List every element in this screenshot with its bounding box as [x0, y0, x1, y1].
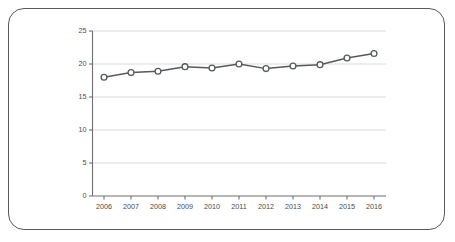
data-point-marker — [236, 61, 242, 67]
x-tick-label: 2015 — [339, 202, 355, 211]
x-tick-label: 2013 — [285, 202, 301, 211]
y-tick-label: 15 — [79, 92, 87, 101]
x-tick-label: 2010 — [204, 202, 220, 211]
line-chart: 0510152025 20062007200820092010201120122… — [0, 0, 455, 242]
data-point-marker — [317, 62, 323, 68]
data-point-marker — [263, 66, 269, 72]
chart-svg: 0510152025 20062007200820092010201120122… — [0, 0, 455, 242]
data-series — [101, 51, 377, 81]
data-point-marker — [182, 64, 188, 70]
y-tick-labels: 0510152025 — [79, 26, 87, 200]
gridlines — [93, 31, 387, 163]
x-tick-label: 2009 — [177, 202, 193, 211]
y-tick-label: 10 — [79, 125, 87, 134]
y-tick-label: 5 — [83, 158, 87, 167]
x-axis — [93, 196, 387, 200]
series-markers — [101, 51, 377, 81]
x-tick-label: 2006 — [96, 202, 112, 211]
x-tick-labels: 2006200720082009201020112012201320142015… — [96, 202, 382, 211]
x-tick-label: 2011 — [231, 202, 246, 211]
data-point-marker — [101, 74, 107, 80]
data-point-marker — [371, 51, 377, 57]
x-tick-label: 2016 — [366, 202, 382, 211]
x-tick-label: 2012 — [258, 202, 274, 211]
data-point-marker — [155, 68, 161, 74]
data-point-marker — [128, 70, 134, 76]
x-tick-label: 2014 — [312, 202, 328, 211]
x-tick-label: 2008 — [150, 202, 166, 211]
data-point-marker — [209, 65, 215, 71]
y-tick-label: 25 — [79, 26, 87, 35]
y-tick-label: 0 — [83, 191, 87, 200]
y-tick-label: 20 — [79, 59, 87, 68]
data-point-marker — [344, 55, 350, 61]
x-tick-label: 2007 — [123, 202, 139, 211]
y-axis — [89, 31, 93, 196]
data-point-marker — [290, 63, 296, 69]
